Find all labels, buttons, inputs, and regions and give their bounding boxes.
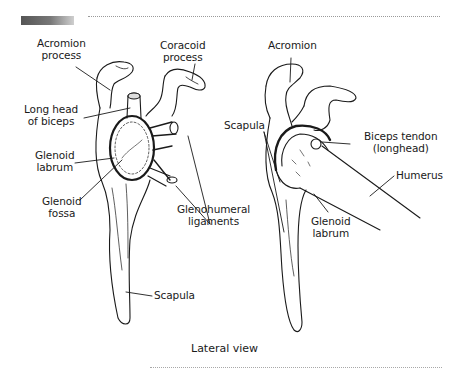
label-scapula-left: Scapula	[154, 290, 195, 302]
label-humerus: Humerus	[396, 170, 443, 182]
figure-caption: Lateral view	[191, 342, 258, 355]
left-leader-lines	[75, 64, 210, 296]
right-scapula-drawing	[265, 64, 420, 332]
label-long-head-of-biceps: Long head of biceps	[24, 104, 78, 127]
label-glenoid-fossa: Glenoid fossa	[42, 196, 81, 219]
left-scapula-drawing	[96, 62, 205, 324]
label-biceps-tendon: Biceps tendon (longhead)	[364, 131, 438, 154]
label-acromion-process: Acromion process	[37, 38, 86, 61]
label-glenohumeral-ligaments: Glenohumeral ligaments	[177, 204, 250, 227]
label-glenoid-labrum-left: Glenoid labrum	[35, 150, 74, 173]
label-coracoid-process: Coracoid process	[160, 40, 206, 63]
label-glenoid-labrum-right: Glenoid labrum	[311, 216, 350, 239]
label-acromion-right: Acromion	[268, 40, 317, 52]
label-scapula-right: Scapula	[224, 120, 265, 132]
